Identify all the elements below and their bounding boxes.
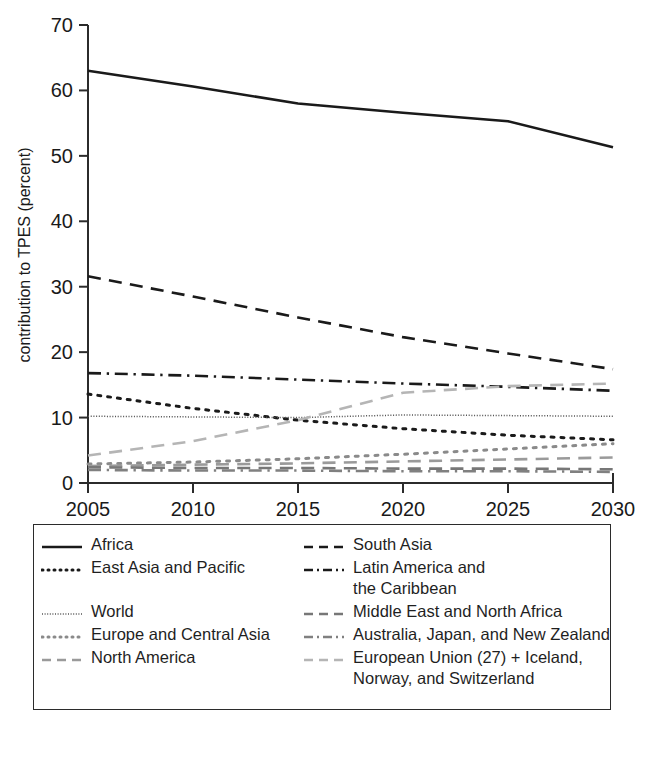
legend-item[interactable]: European Union (27) + Iceland, Norway, a… xyxy=(303,647,610,689)
y-tick-label: 50 xyxy=(51,145,73,167)
y-axis-tick-labels: 706050403020100 xyxy=(51,14,73,494)
y-tick-label: 0 xyxy=(62,472,73,494)
legend-item-label: Africa xyxy=(91,534,133,555)
legend-line-style-icon xyxy=(41,624,83,645)
legend-item[interactable]: Latin America and the Caribbean xyxy=(303,557,610,599)
legend-item[interactable]: East Asia and Pacific xyxy=(41,557,301,578)
legend-line-style-icon xyxy=(303,624,345,645)
x-tick-label: 2015 xyxy=(276,498,321,520)
legend-line-style-icon xyxy=(303,534,345,555)
legend-right-column: South AsiaLatin America and the Caribbea… xyxy=(301,534,610,709)
series-line xyxy=(88,373,613,391)
legend-line-style-icon xyxy=(41,647,83,668)
series-line xyxy=(88,467,613,469)
y-axis-title: contribution to TPES (percent) xyxy=(16,148,33,363)
line-chart: 706050403020100 200520102015202020252030… xyxy=(0,0,648,520)
legend-item-label: World xyxy=(91,601,134,622)
series-line xyxy=(88,415,613,418)
legend-item[interactable]: Middle East and North Africa xyxy=(303,601,610,622)
legend-item-label: Latin America and the Caribbean xyxy=(353,557,485,599)
legend-item-label: European Union (27) + Iceland, Norway, a… xyxy=(353,647,583,689)
x-axis-tick-labels: 200520102015202020252030 xyxy=(66,498,636,520)
series-lines xyxy=(88,71,613,472)
x-tick-label: 2005 xyxy=(66,498,111,520)
legend-item[interactable]: North America xyxy=(41,647,301,668)
legend-item[interactable]: Europe and Central Asia xyxy=(41,624,301,645)
legend-item[interactable]: Africa xyxy=(41,534,301,555)
legend-item-label: Australia, Japan, and New Zealand xyxy=(353,624,610,645)
chart-page: 706050403020100 200520102015202020252030… xyxy=(0,0,648,762)
y-tick-label: 40 xyxy=(51,210,73,232)
legend-item[interactable]: South Asia xyxy=(303,534,610,555)
y-tick-label: 60 xyxy=(51,79,73,101)
y-tick-label: 10 xyxy=(51,407,73,429)
legend-item[interactable]: Australia, Japan, and New Zealand xyxy=(303,624,610,645)
x-tick-label: 2030 xyxy=(591,498,636,520)
legend-line-style-icon xyxy=(303,601,345,622)
legend-line-style-icon xyxy=(41,534,83,555)
legend-item-label: South Asia xyxy=(353,534,432,555)
series-line xyxy=(88,71,613,148)
legend-item-label: Europe and Central Asia xyxy=(91,624,270,645)
series-line xyxy=(88,444,613,464)
y-tick-label: 30 xyxy=(51,276,73,298)
y-tick-label: 70 xyxy=(51,14,73,36)
legend-spacer xyxy=(41,580,301,601)
chart-legend: AfricaEast Asia and PacificWorldEurope a… xyxy=(33,524,611,710)
x-tick-label: 2020 xyxy=(381,498,426,520)
y-tick-label: 20 xyxy=(51,341,73,363)
chart-svg: 706050403020100 200520102015202020252030… xyxy=(0,0,648,520)
legend-left-column: AfricaEast Asia and PacificWorldEurope a… xyxy=(34,534,301,709)
legend-item-label: North America xyxy=(91,647,196,668)
legend-item[interactable]: World xyxy=(41,601,301,622)
series-line xyxy=(88,384,613,456)
legend-item-label: Middle East and North Africa xyxy=(353,601,562,622)
series-line xyxy=(88,470,613,472)
legend-item-label: East Asia and Pacific xyxy=(91,557,245,578)
x-tick-label: 2010 xyxy=(171,498,216,520)
legend-line-style-icon xyxy=(41,557,83,578)
series-line xyxy=(88,276,613,369)
legend-line-style-icon xyxy=(303,647,345,668)
legend-line-style-icon xyxy=(303,557,345,578)
x-tick-label: 2025 xyxy=(486,498,531,520)
legend-line-style-icon xyxy=(41,601,83,622)
